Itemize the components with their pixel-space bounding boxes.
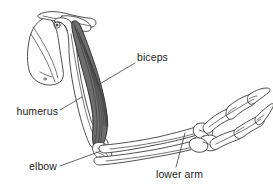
- glenoid-center: [56, 24, 59, 27]
- label-lower-arm: lower arm: [156, 168, 203, 180]
- leader-line-biceps: [98, 63, 135, 85]
- label-biceps: biceps: [137, 51, 168, 63]
- anatomy-illustration: biceps humerus elbow lower arm: [0, 0, 273, 192]
- claw-upper: [247, 88, 270, 104]
- label-elbow: elbow: [29, 160, 57, 172]
- anatomy-diagram: biceps humerus elbow lower arm: [0, 0, 273, 192]
- label-humerus: humerus: [16, 105, 58, 117]
- carpal-block-3: [189, 138, 208, 153]
